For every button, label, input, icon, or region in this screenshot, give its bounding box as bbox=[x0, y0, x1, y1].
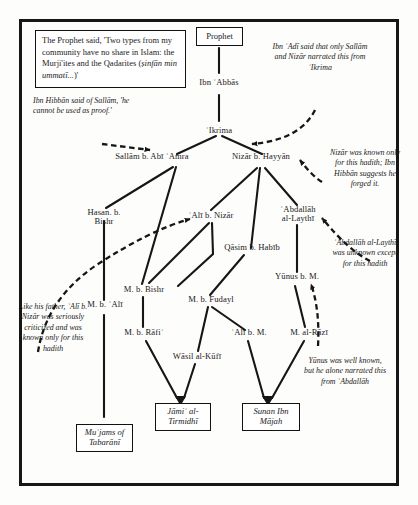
node-mujams-of-tabarani[interactable]: Muʿjams ofTabarānī bbox=[76, 424, 133, 452]
node-ali-b-nizar[interactable]: ʿAlī b. Nizār bbox=[176, 211, 246, 220]
node-jami-al-tirmidhi[interactable]: Jāmiʿ al-Tirmidhī bbox=[155, 403, 211, 431]
hadith-quote-box: The Prophet said, 'Two types from my com… bbox=[35, 30, 186, 88]
node-m-al-razi[interactable]: M. al-Rāzī bbox=[281, 328, 337, 337]
annotation-ibn-adi: Ibn ʿAdī said that only Sallām and Nizār… bbox=[272, 42, 368, 73]
node-ibn-abbas[interactable]: Ibn ʿAbbās bbox=[186, 78, 252, 87]
node-sallam-b-abi-amra[interactable]: Sallām b. Abī ʿAmra bbox=[110, 152, 194, 161]
node-wasil-al-kufi[interactable]: Wāsil al-Kūfī bbox=[161, 352, 233, 361]
node-sunan-ibn-majah[interactable]: Sunan IbnMājah bbox=[242, 403, 300, 431]
annotation-ibn-hibban-sallam: Ibn Hibbān said of Sallām, 'he cannot be… bbox=[33, 96, 133, 117]
annotation-yunus: Yūnus was well known, but he alone narra… bbox=[304, 356, 386, 387]
node-prophet-label: Prophet bbox=[206, 32, 233, 42]
node-m-b-fudayl[interactable]: M. b. Fudayl bbox=[178, 295, 244, 304]
node-m-b-bishr[interactable]: M. b. Bishr bbox=[113, 285, 175, 294]
node-mujams-of-tabarani-label: Muʿjams ofTabarānī bbox=[85, 428, 124, 447]
node-nizar-b-hayyan[interactable]: Nizār b. Hayyān bbox=[225, 152, 297, 161]
node-jami-al-tirmidhi-label: Jāmiʿ al-Tirmidhī bbox=[167, 407, 198, 426]
annotation-abdallah-al-laythi: ʿAbdallāh al-Laythī was unknown except f… bbox=[332, 238, 398, 269]
annotation-ali-b-nizar: Like his father, ʿAlī b. Nizār was serio… bbox=[14, 302, 92, 354]
node-ali-b-m[interactable]: ʿAlī b. M. bbox=[222, 328, 276, 337]
transmission-lines bbox=[104, 48, 305, 417]
isnad-diagram: The Prophet said, 'Two types from my com… bbox=[0, 0, 418, 505]
node-abdallah-al-laythi[interactable]: ʿAbdallāhal-Laythī bbox=[272, 205, 324, 224]
node-ikrima[interactable]: ʿIkrima bbox=[192, 126, 246, 135]
quote-text-after: )' bbox=[74, 70, 78, 80]
node-m-b-rafi[interactable]: M. b. Rāfiʿ bbox=[114, 328, 174, 337]
node-qasim-b-habib[interactable]: Qāsim b. Habīb bbox=[214, 243, 290, 252]
node-yunus-b-m[interactable]: Yūnus b. M. bbox=[266, 272, 328, 281]
node-sunan-ibn-majah-label: Sunan IbnMājah bbox=[253, 407, 288, 426]
annotation-nizar-known: Nizār was known only for this hadith; Ib… bbox=[330, 148, 400, 190]
node-hasan-b-bishr[interactable]: Hasan. b.Bishr bbox=[78, 208, 130, 227]
node-prophet[interactable]: Prophet bbox=[196, 27, 243, 46]
